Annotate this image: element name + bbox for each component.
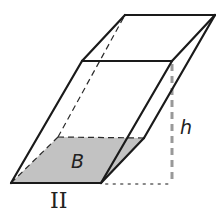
hidden-lateral-edge [58, 15, 125, 137]
oblique-prism-diagram: B h II [0, 0, 224, 216]
base-label: B [71, 150, 84, 172]
front-right-lateral-edge [101, 61, 172, 183]
height-label: h [180, 116, 192, 138]
figure-number-label: II [50, 188, 67, 213]
